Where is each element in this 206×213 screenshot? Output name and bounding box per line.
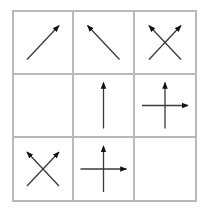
grid-cell <box>27 152 59 186</box>
grid-cell <box>142 83 188 129</box>
arrow-matrix-puzzle <box>0 0 206 213</box>
grid-cell <box>88 26 120 60</box>
grid-cell <box>27 26 59 60</box>
grid-cells <box>27 26 188 193</box>
arrow-up-right-icon <box>27 26 59 60</box>
grid-cell <box>149 26 181 60</box>
arrow-up-left-icon <box>88 26 120 60</box>
grid-cell <box>81 146 127 192</box>
